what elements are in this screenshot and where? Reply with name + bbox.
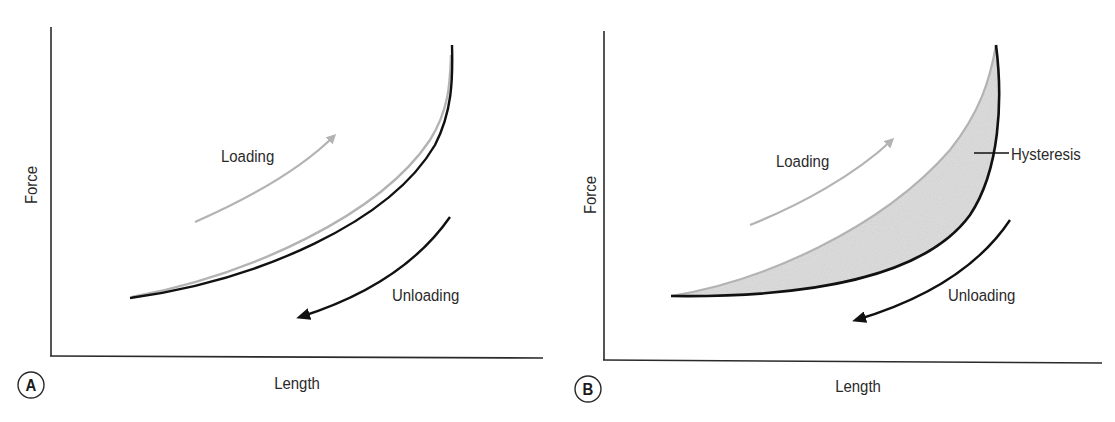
panel-b: Hysteresis Loading Unloading Force Lengt… <box>575 31 1102 402</box>
panel-a-unloading-label: Unloading <box>392 286 459 304</box>
panel-a-loading-curve <box>132 55 451 297</box>
panel-a: Loading Unloading Force Length A <box>18 27 543 398</box>
force-length-figure: Loading Unloading Force Length A Hystere… <box>0 0 1115 422</box>
panel-a-x-axis <box>50 356 543 358</box>
panel-b-x-axis <box>603 360 1102 363</box>
panel-b-hysteresis-label: Hysteresis <box>1011 145 1081 163</box>
panel-b-x-axis-label: Length <box>835 377 881 395</box>
panel-a-y-axis-label: Force <box>22 166 40 204</box>
panel-b-letter-badge: B <box>575 376 601 402</box>
panel-a-letter-badge: A <box>18 372 44 398</box>
panel-b-hysteresis-area <box>671 45 999 296</box>
panel-b-letter: B <box>583 380 594 398</box>
panel-a-loading-label: Loading <box>221 147 274 165</box>
panel-b-y-axis-label: Force <box>581 176 599 214</box>
panel-b-loading-label: Loading <box>776 152 829 170</box>
panel-b-unloading-label: Unloading <box>948 286 1015 304</box>
panel-a-letter: A <box>26 376 37 394</box>
panel-a-x-axis-label: Length <box>274 374 320 392</box>
